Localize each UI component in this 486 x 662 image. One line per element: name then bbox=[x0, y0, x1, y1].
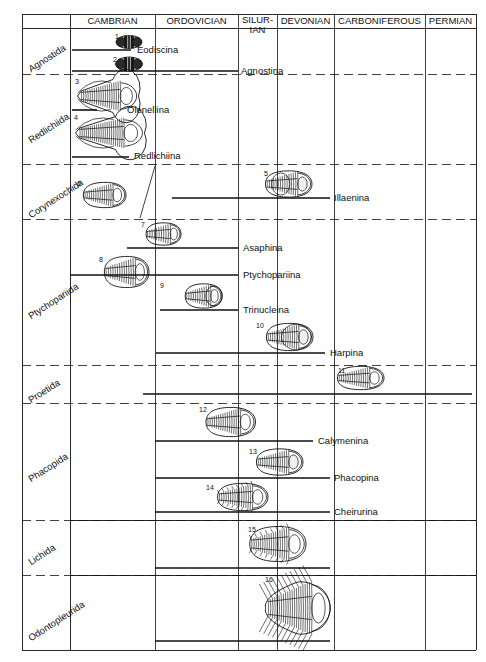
fossil-part bbox=[236, 409, 237, 434]
fossil-15-lichid bbox=[249, 523, 306, 564]
fossil-part bbox=[286, 450, 287, 474]
fossil-part bbox=[211, 290, 219, 303]
fossil-part bbox=[118, 81, 119, 110]
fossil-part bbox=[214, 416, 215, 428]
specimen-number-8: 8 bbox=[99, 256, 103, 263]
fossil-part bbox=[271, 556, 273, 560]
fossil-part bbox=[264, 582, 273, 598]
fossil-7-asaphid bbox=[146, 223, 181, 245]
fossil-part bbox=[280, 530, 281, 558]
fossil-part bbox=[281, 525, 283, 529]
fossil-part bbox=[259, 616, 268, 632]
fossil-part bbox=[115, 120, 116, 146]
specimen-number-12: 12 bbox=[199, 406, 207, 413]
fossil-part bbox=[218, 415, 219, 430]
suborder-label-cheirurina: Cheirurina bbox=[334, 507, 378, 517]
fossil-part bbox=[81, 91, 82, 100]
fossil-part bbox=[224, 492, 225, 502]
fossil-part bbox=[96, 87, 97, 104]
fossil-part bbox=[284, 529, 285, 559]
fossil-part bbox=[186, 293, 187, 300]
specimen-number-5: 5 bbox=[264, 170, 268, 177]
fossil-part bbox=[282, 176, 283, 192]
fossil-part bbox=[280, 452, 281, 472]
fossil-part bbox=[276, 178, 277, 190]
fossil-part bbox=[113, 120, 114, 145]
specimen-number-6: 6 bbox=[77, 180, 81, 187]
fossil-part bbox=[279, 330, 280, 344]
fossil-part bbox=[119, 263, 120, 281]
fossil-part bbox=[202, 287, 203, 304]
fossil-part bbox=[94, 125, 95, 141]
suborder-label-olenellina: Olenellina bbox=[127, 105, 169, 115]
period-header-line2: IAN bbox=[250, 24, 266, 35]
specimen-number-2: 2 bbox=[113, 56, 117, 63]
specimen-number-1: 1 bbox=[115, 33, 119, 40]
fossil-part bbox=[267, 180, 268, 187]
fossil-part bbox=[86, 127, 87, 139]
fossil-part bbox=[289, 455, 299, 469]
fossil-part bbox=[131, 259, 132, 285]
fossil-part bbox=[292, 326, 293, 348]
fossil-part bbox=[241, 484, 243, 487]
fossil-part bbox=[255, 533, 257, 537]
suborder-label-redlichiina: Redlichiina bbox=[134, 151, 180, 161]
fossil-part bbox=[260, 552, 262, 556]
fossil-part bbox=[124, 120, 142, 146]
fossil-part bbox=[232, 490, 233, 505]
fossil-part bbox=[120, 119, 121, 147]
fossil-part bbox=[197, 289, 198, 303]
specimen-number-3: 3 bbox=[75, 78, 79, 85]
fossil-part bbox=[147, 229, 170, 238]
fossil-part bbox=[210, 417, 211, 427]
specimen-number-14: 14 bbox=[206, 484, 214, 491]
fossil-part bbox=[271, 533, 272, 555]
suborder-label-agnostina: Agnostina bbox=[241, 66, 283, 76]
fossil-part bbox=[133, 258, 134, 286]
fossil-part bbox=[90, 89, 91, 103]
fossil-part bbox=[113, 188, 122, 202]
fossil-12-calymenid bbox=[206, 407, 255, 436]
fossil-part bbox=[283, 593, 284, 622]
suborder-label-ptychopariina: Ptychopariina bbox=[243, 270, 301, 280]
fossil-part bbox=[98, 188, 99, 203]
fossil-5-illaenid bbox=[265, 171, 312, 197]
fossil-part bbox=[270, 599, 271, 617]
fossil-part bbox=[270, 332, 271, 341]
fossil-part bbox=[111, 121, 112, 145]
fossil-part bbox=[225, 413, 226, 432]
fossil-part bbox=[307, 583, 308, 633]
fossil-part bbox=[271, 528, 273, 532]
fossil-part bbox=[274, 331, 275, 343]
fossil-part bbox=[170, 228, 177, 240]
fossil-part bbox=[265, 535, 266, 553]
fossil-14-cheirurid bbox=[217, 481, 268, 513]
fossil-part bbox=[299, 587, 300, 629]
fossil-part bbox=[296, 325, 297, 349]
fossil-part bbox=[286, 528, 287, 560]
fossil-part bbox=[275, 532, 276, 557]
fossil-part bbox=[101, 123, 102, 142]
fossil-part bbox=[265, 530, 267, 534]
fossil-part bbox=[273, 454, 274, 470]
specimen-number-4: 4 bbox=[74, 114, 78, 121]
specimen-number-11: 11 bbox=[338, 367, 345, 374]
fossil-part bbox=[122, 262, 123, 282]
fossil-part bbox=[281, 594, 282, 621]
fossil-6-corynexochid bbox=[83, 182, 126, 207]
fossil-part bbox=[100, 187, 101, 203]
fossil-part bbox=[268, 600, 269, 616]
fossil-part bbox=[212, 417, 213, 428]
fossil-part bbox=[269, 455, 270, 469]
fossil-part bbox=[258, 537, 259, 551]
fossil-part bbox=[133, 59, 142, 69]
trilobite-range-chart: CAMBRIANORDOVICIANSILUR-IANDEVONIANCARBO… bbox=[0, 0, 486, 662]
fossil-part bbox=[88, 90, 89, 103]
fossil-part bbox=[135, 264, 144, 281]
fossil-part bbox=[294, 589, 295, 627]
connector-line bbox=[140, 166, 155, 218]
fossil-part bbox=[85, 191, 86, 198]
fossil-part bbox=[246, 486, 247, 508]
fossil-part bbox=[303, 635, 312, 651]
fossil-part bbox=[226, 491, 227, 502]
